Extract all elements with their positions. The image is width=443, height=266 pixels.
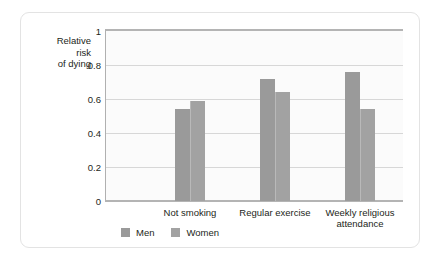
x-tick-label-weekly-religious-attendance-line-1: Weekly religious xyxy=(326,207,395,218)
x-tick-label-weekly-religious-attendance-line-2: attendance xyxy=(326,218,395,229)
bar-women-not-smoking[interactable] xyxy=(190,101,205,201)
y-tick-label-1: 1 xyxy=(96,26,101,37)
y-tick-label-0.8: 0.8 xyxy=(88,60,101,71)
bar-women-regular-exercise[interactable] xyxy=(275,92,290,201)
x-tick-label-not-smoking: Not smoking xyxy=(164,207,217,218)
y-tick-label-0: 0 xyxy=(96,196,101,207)
y-axis-title-line-3: of dying xyxy=(29,58,91,70)
bar-men-weekly-religious-attendance[interactable] xyxy=(345,72,360,201)
y-axis-title-line-1: Relative xyxy=(29,35,91,47)
y-tick-label-0.4: 0.4 xyxy=(88,128,101,139)
x-tick-label-regular-exercise: Regular exercise xyxy=(239,207,310,218)
legend-swatch-men-icon xyxy=(121,228,130,237)
x-tick-label-regular-exercise-line-1: Regular exercise xyxy=(239,207,310,218)
legend-swatch-women-icon xyxy=(171,228,180,237)
y-axis-title-line-2: risk xyxy=(29,47,91,59)
x-tick-label-weekly-religious-attendance: Weekly religious attendance xyxy=(326,207,395,229)
legend-item-women[interactable]: Women xyxy=(171,227,219,238)
x-tick-label-not-smoking-line-1: Not smoking xyxy=(164,207,217,218)
legend-label-women: Women xyxy=(186,227,219,238)
chart-card: Relative risk of dying 1 0.8 0.6 0.4 0.2… xyxy=(20,12,420,248)
y-axis-title: Relative risk of dying xyxy=(29,35,91,70)
chart-legend: Men Women xyxy=(121,227,219,238)
gridline-0.8 xyxy=(106,65,403,66)
bar-men-regular-exercise[interactable] xyxy=(260,79,275,201)
plot-area: 1 0.8 0.6 0.4 0.2 0 Not smoking Regular … xyxy=(105,29,403,201)
bar-women-weekly-religious-attendance[interactable] xyxy=(360,109,375,201)
y-tick-label-0.6: 0.6 xyxy=(88,94,101,105)
bar-men-not-smoking[interactable] xyxy=(175,109,190,201)
legend-item-men[interactable]: Men xyxy=(121,227,154,238)
y-tick-label-0.2: 0.2 xyxy=(88,162,101,173)
legend-label-men: Men xyxy=(136,227,154,238)
